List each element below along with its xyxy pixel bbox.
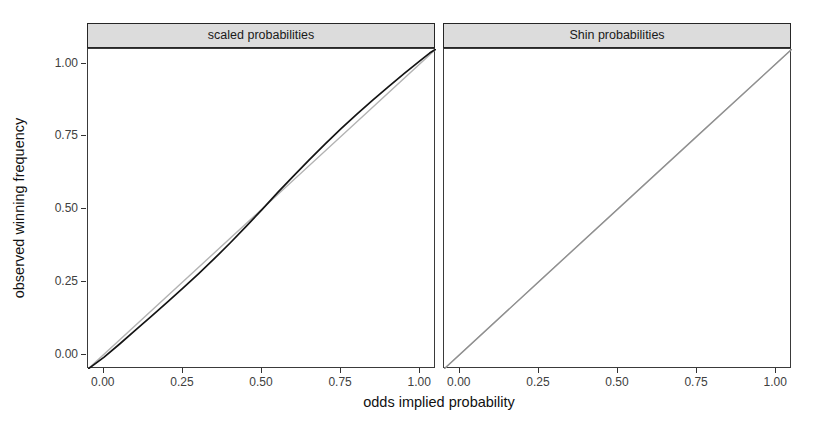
y-tick-label: 0.75 (40, 129, 78, 141)
x-tick-mark (538, 368, 539, 373)
y-tick-mark (81, 281, 86, 282)
x-tick-label: 0.75 (684, 376, 707, 388)
y-tick-label: 1.00 (40, 57, 78, 69)
y-tick-mark (81, 63, 86, 64)
x-tick-label: 0.75 (328, 376, 351, 388)
y-tick-mark (81, 354, 86, 355)
x-tick-label: 0.50 (249, 376, 272, 388)
x-tick-label: 0.25 (526, 376, 549, 388)
x-tick-label: 0.50 (605, 376, 628, 388)
x-axis-title: odds implied probability (363, 394, 515, 410)
x-tick-label: 0.25 (170, 376, 193, 388)
x-tick-label: 1.00 (764, 376, 787, 388)
y-tick-label: 0.50 (40, 202, 78, 214)
y-tick-label: 0.00 (40, 348, 78, 360)
x-tick-mark (775, 368, 776, 373)
facet-strip: Shin probabilities (443, 23, 791, 48)
y-tick-mark (81, 135, 86, 136)
calibration-curve (444, 49, 792, 369)
x-tick-mark (182, 368, 183, 373)
x-tick-label: 0.00 (91, 376, 114, 388)
x-tick-mark (340, 368, 341, 373)
plot-panel (87, 48, 435, 368)
x-tick-mark (617, 368, 618, 373)
panel-canvas (88, 49, 436, 369)
x-tick-mark (103, 368, 104, 373)
facet-strip-label: scaled probabilities (208, 29, 314, 42)
plot-panel (443, 48, 791, 368)
x-tick-mark (261, 368, 262, 373)
facet-strip-label: Shin probabilities (569, 29, 664, 42)
calibration-plot-figure: observed winning frequency odds implied … (0, 0, 827, 424)
x-tick-mark (696, 368, 697, 373)
panel-canvas (444, 49, 792, 369)
x-tick-mark (459, 368, 460, 373)
x-tick-mark (419, 368, 420, 373)
y-axis-title: observed winning frequency (11, 118, 27, 299)
y-tick-mark (81, 208, 86, 209)
x-tick-label: 1.00 (408, 376, 431, 388)
x-tick-label: 0.00 (447, 376, 470, 388)
y-tick-label: 0.25 (40, 275, 78, 287)
facet-strip: scaled probabilities (87, 23, 435, 48)
